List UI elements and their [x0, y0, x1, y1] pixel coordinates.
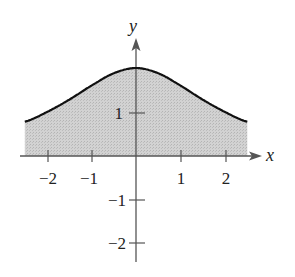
x-tick-label: −1 — [80, 169, 98, 188]
chart-svg: −2 −1 1 2 1 −1 −2 x y — [0, 0, 295, 277]
y-axis-label: y — [127, 16, 137, 36]
x-tick-label: 1 — [177, 169, 186, 188]
x-tick-label: −2 — [39, 169, 57, 188]
chart-figure: −2 −1 1 2 1 −1 −2 x y — [0, 0, 295, 277]
y-tick-label: −2 — [108, 234, 126, 253]
y-tick-label: 1 — [115, 104, 124, 123]
x-tick-label: 2 — [222, 169, 231, 188]
y-tick-label: −1 — [108, 191, 126, 210]
x-axis-label: x — [265, 145, 274, 165]
